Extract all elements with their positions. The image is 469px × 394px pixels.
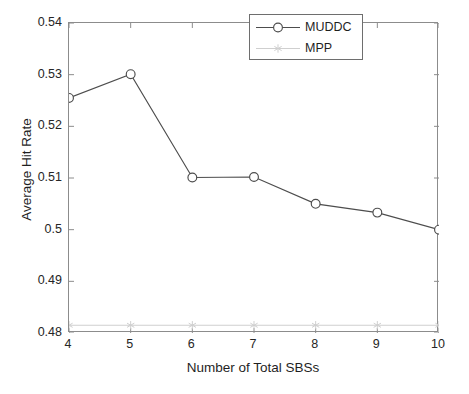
y-tick-label: 0.5 [45,223,62,236]
y-tick-label: 0.53 [38,68,62,81]
chart-figure: 0.480.490.50.510.520.530.54 Average Hit … [0,0,469,394]
legend-label: MUDDC [305,20,352,35]
x-tick-label: 8 [311,338,318,351]
y-tick-label: 0.49 [38,274,62,287]
y-tick-label: 0.51 [38,171,62,184]
legend-box: MUDDCMPP [249,14,363,60]
x-tick-label: 7 [250,338,257,351]
x-axis-title: Number of Total SBSs [68,360,438,375]
circle-marker-icon [255,17,301,38]
x-tick-label: 10 [431,338,445,351]
x-tick-label: 5 [126,338,133,351]
x-tick-label: 6 [188,338,195,351]
series-muddc [69,70,439,234]
y-tick-label: 0.54 [38,16,62,29]
x-tick-label: 4 [65,338,72,351]
x-axis-tick-labels: 45678910 [0,338,469,358]
plot-canvas [69,23,439,333]
series-mpp [69,321,439,329]
y-tick-label: 0.52 [38,119,62,132]
legend-item-mpp[interactable]: MPP [250,38,364,59]
y-axis-title: Average Hit Rate [19,80,34,260]
star-marker-icon [255,38,301,59]
y-tick-label: 0.48 [38,326,62,339]
x-tick-label: 9 [373,338,380,351]
legend-label: MPP [305,41,332,56]
plot-area [68,22,438,332]
legend-item-muddc[interactable]: MUDDC [250,17,364,38]
